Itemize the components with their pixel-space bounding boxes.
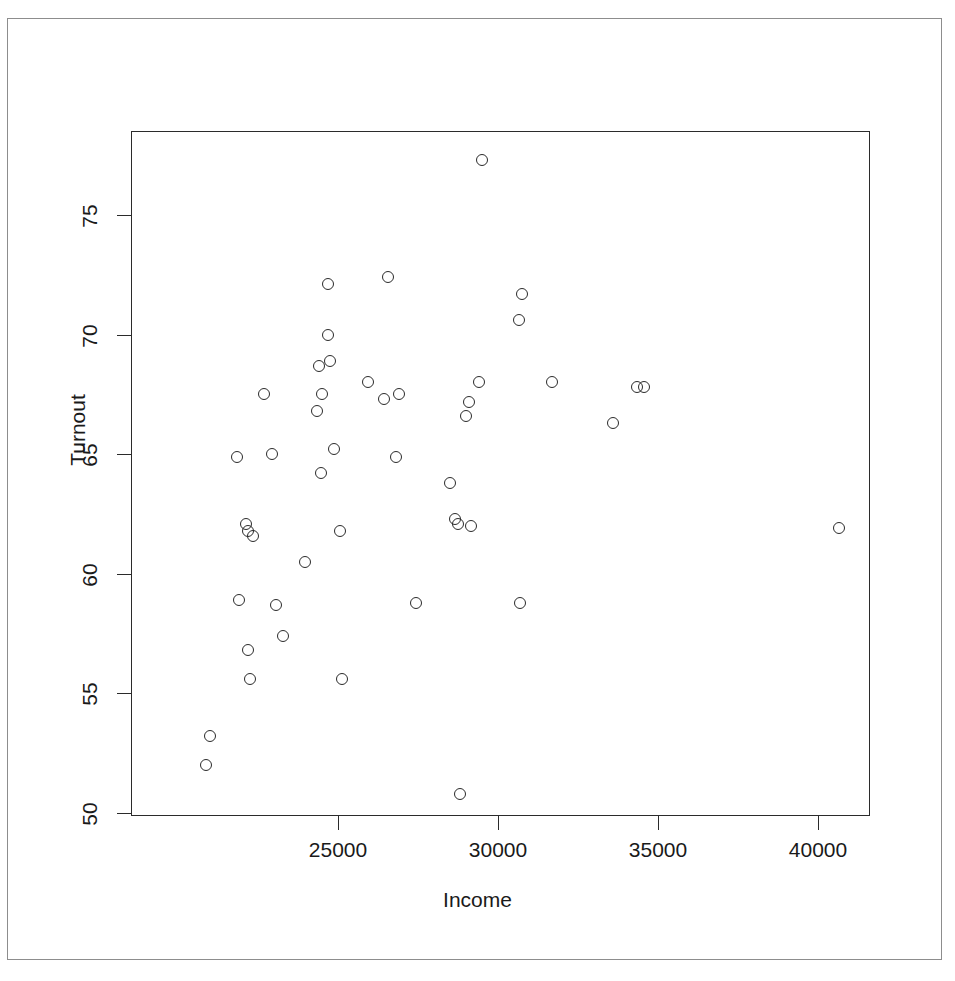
data-point xyxy=(514,597,526,609)
data-point xyxy=(336,673,348,685)
y-tick-60 xyxy=(117,574,131,575)
data-point xyxy=(393,388,405,400)
data-point xyxy=(233,594,245,606)
data-point xyxy=(476,154,488,166)
data-point xyxy=(231,451,243,463)
data-point xyxy=(463,396,475,408)
data-point xyxy=(311,405,323,417)
y-tick-label-75: 75 xyxy=(78,204,102,227)
x-tick-30000 xyxy=(498,816,499,830)
x-tick-25000 xyxy=(338,816,339,830)
data-point xyxy=(410,597,422,609)
x-tick-35000 xyxy=(658,816,659,830)
y-tick-label-50: 50 xyxy=(78,802,102,825)
data-point xyxy=(204,730,216,742)
data-point xyxy=(328,443,340,455)
x-tick-label-25000: 25000 xyxy=(278,838,398,862)
data-point xyxy=(334,525,346,537)
data-point xyxy=(258,388,270,400)
y-tick-55 xyxy=(117,693,131,694)
y-tick-label-60: 60 xyxy=(78,563,102,586)
data-point xyxy=(362,376,374,388)
data-point xyxy=(454,788,466,800)
data-point xyxy=(382,271,394,283)
data-point xyxy=(266,448,278,460)
data-point xyxy=(513,314,525,326)
data-point xyxy=(473,376,485,388)
data-point xyxy=(465,520,477,532)
data-point xyxy=(315,467,327,479)
y-tick-70 xyxy=(117,335,131,336)
scatter-plot-figure: Turnout 75 70 65 60 55 50 25000 30000 35… xyxy=(0,0,955,981)
data-point xyxy=(638,381,650,393)
x-tick-label-35000: 35000 xyxy=(598,838,718,862)
data-point xyxy=(607,417,619,429)
data-point xyxy=(313,360,325,372)
data-point xyxy=(460,410,472,422)
x-tick-label-40000: 40000 xyxy=(758,838,878,862)
data-point xyxy=(277,630,289,642)
data-point xyxy=(242,644,254,656)
y-tick-label-70: 70 xyxy=(78,324,102,347)
data-point xyxy=(452,518,464,530)
data-point xyxy=(833,522,845,534)
y-tick-label-55: 55 xyxy=(78,682,102,705)
x-tick-40000 xyxy=(818,816,819,830)
y-tick-label-65: 65 xyxy=(78,443,102,466)
data-point xyxy=(444,477,456,489)
y-tick-50 xyxy=(117,813,131,814)
y-tick-75 xyxy=(117,215,131,216)
x-axis-title: Income xyxy=(0,888,955,912)
data-point xyxy=(247,530,259,542)
data-point xyxy=(299,556,311,568)
data-point xyxy=(244,673,256,685)
data-point xyxy=(322,329,334,341)
data-points-layer xyxy=(131,131,870,816)
data-point xyxy=(390,451,402,463)
data-point xyxy=(324,355,336,367)
x-tick-label-30000: 30000 xyxy=(438,838,558,862)
data-point xyxy=(516,288,528,300)
data-point xyxy=(270,599,282,611)
data-point xyxy=(546,376,558,388)
data-point xyxy=(378,393,390,405)
data-point xyxy=(316,388,328,400)
y-tick-65 xyxy=(117,454,131,455)
data-point xyxy=(200,759,212,771)
data-point xyxy=(322,278,334,290)
